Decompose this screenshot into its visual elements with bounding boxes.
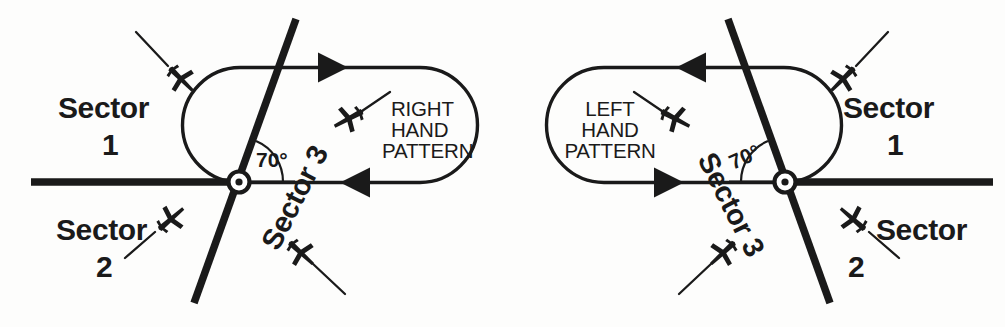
sector-1-number-right: 1 [887,128,904,161]
diagram-canvas: Sector 1 Sector 2 Sector 3 70° RIGHT HAN… [0,0,1005,327]
sector-2-number: 2 [96,250,113,283]
aircraft-sector-3-mirrored [634,92,696,138]
aircraft-sector-1-mirrored [822,32,888,100]
holding-fix-symbol [229,172,250,193]
pattern-label-line-3-right: PATTERN [564,139,655,162]
pattern-label-line-1-right: LEFT [585,97,635,120]
aircraft-sector-1 [136,32,202,100]
sector-2-number-right: 2 [848,250,865,283]
aircraft-sector-3 [328,92,390,138]
holding-fix-symbol-mirrored [775,172,796,193]
left-hand-pattern-diagram: Sector 1 Sector 2 Sector 3 70° LEFT HAND… [547,19,994,303]
inbound-track-arrow [340,168,370,198]
sector-1-label-right: Sector [843,91,935,124]
inbound-track-arrow-mirrored [654,168,684,198]
pattern-label-line-1: RIGHT [391,97,454,120]
left-hand-pattern-label: LEFT HAND PATTERN [564,97,655,162]
right-hand-pattern-label: RIGHT HAND PATTERN [382,97,473,162]
angle-label: 70° [256,148,288,171]
outbound-track-arrow [318,53,348,83]
pattern-label-line-2-right: HAND [581,118,638,141]
outbound-track-arrow-mirrored [676,53,706,83]
sector-2-label-right: Sector [876,213,968,246]
sector-1-number: 1 [102,128,119,161]
sector-1-label: Sector [58,91,150,124]
pattern-label-line-3: PATTERN [382,139,473,162]
right-hand-pattern-diagram: Sector 1 Sector 2 Sector 3 70° RIGHT HAN… [31,19,478,303]
pattern-label-line-2: HAND [391,118,448,141]
holding-pattern-entry-figure: Sector 1 Sector 2 Sector 3 70° RIGHT HAN… [0,0,1005,327]
sector-2-label: Sector [56,213,148,246]
